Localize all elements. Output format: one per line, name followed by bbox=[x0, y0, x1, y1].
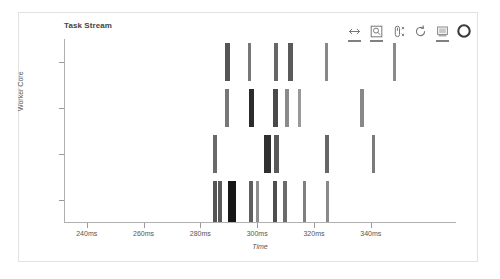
task-bar[interactable] bbox=[228, 181, 236, 222]
x-axis-tick-label: 300ms bbox=[247, 230, 268, 237]
task-glyph-layer bbox=[65, 39, 456, 222]
x-axis-tick-label: 320ms bbox=[303, 230, 324, 237]
task-bar[interactable] bbox=[225, 89, 229, 127]
task-bar[interactable] bbox=[225, 43, 230, 81]
task-bar[interactable] bbox=[372, 135, 376, 173]
task-bar[interactable] bbox=[213, 135, 217, 173]
x-axis-tick-label: 340ms bbox=[360, 230, 381, 237]
task-bar[interactable] bbox=[285, 89, 289, 127]
plot-toolbar bbox=[347, 21, 471, 41]
task-bar[interactable] bbox=[274, 135, 279, 173]
task-bar[interactable] bbox=[256, 181, 259, 222]
task-bar[interactable] bbox=[298, 89, 301, 127]
task-bar[interactable] bbox=[274, 43, 278, 81]
task-bar[interactable] bbox=[218, 181, 222, 222]
task-bar[interactable] bbox=[273, 181, 277, 222]
x-axis-tick-label: 280ms bbox=[190, 230, 211, 237]
task-bar[interactable] bbox=[249, 181, 253, 222]
box-zoom-tool-button[interactable] bbox=[369, 24, 384, 39]
task-bar[interactable] bbox=[248, 43, 252, 81]
y-axis-tick bbox=[59, 62, 64, 63]
reset-tool-button[interactable] bbox=[413, 24, 428, 39]
y-axis-tick bbox=[59, 108, 64, 109]
x-axis-tick bbox=[200, 223, 201, 228]
x-axis-tick bbox=[144, 223, 145, 228]
task-bar[interactable] bbox=[288, 43, 293, 81]
task-bar[interactable] bbox=[249, 89, 255, 127]
x-axis-tick bbox=[314, 223, 315, 228]
task-bar[interactable] bbox=[264, 135, 271, 173]
x-axis-tick bbox=[87, 223, 88, 228]
x-axis-tick bbox=[371, 223, 372, 228]
task-bar[interactable] bbox=[303, 181, 306, 222]
plot-container: Task Stream bbox=[19, 13, 477, 261]
x-axis-tick-label: 260ms bbox=[133, 230, 154, 237]
task-bar[interactable] bbox=[283, 181, 287, 222]
y-axis-tick bbox=[59, 200, 64, 201]
y-axis-label: Worker Core bbox=[17, 71, 24, 111]
y-axis-tick bbox=[59, 154, 64, 155]
bokeh-figure: Task Stream bbox=[18, 12, 478, 262]
plot-frame bbox=[64, 39, 456, 223]
save-tool-button[interactable] bbox=[435, 24, 450, 39]
x-axis-tick-label: 240ms bbox=[76, 230, 97, 237]
pan-tool-button[interactable] bbox=[347, 24, 362, 39]
page-title: Task Stream bbox=[64, 21, 112, 30]
wheel-zoom-tool-button[interactable] bbox=[391, 24, 406, 39]
task-bar[interactable] bbox=[393, 43, 396, 81]
x-axis-label: Time bbox=[64, 243, 456, 250]
task-bar[interactable] bbox=[325, 43, 328, 81]
x-axis-tick bbox=[257, 223, 258, 228]
task-bar[interactable] bbox=[326, 181, 329, 222]
task-bar[interactable] bbox=[325, 135, 329, 173]
task-bar[interactable] bbox=[360, 89, 363, 127]
bokeh-logo-icon[interactable] bbox=[457, 24, 471, 38]
task-bar[interactable] bbox=[273, 89, 278, 127]
task-bar[interactable] bbox=[213, 181, 217, 222]
